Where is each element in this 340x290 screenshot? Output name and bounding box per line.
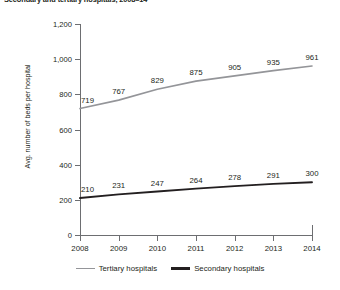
data-point-label: 719: [81, 96, 94, 105]
data-point-label: 291: [267, 171, 280, 180]
data-point-label: 247: [151, 179, 164, 188]
data-point-label: 300: [305, 169, 318, 178]
data-point-label: 961: [305, 53, 318, 62]
legend-label: Secondary hospitals: [194, 264, 264, 273]
legend-label: Tertiary hospitals: [99, 264, 158, 273]
data-point-label: 231: [112, 181, 125, 190]
data-point-label: 264: [189, 176, 202, 185]
legend-swatch-icon: [171, 267, 190, 269]
data-point-label: 935: [267, 58, 280, 67]
data-point-label: 278: [228, 173, 241, 182]
data-point-label: 210: [81, 185, 94, 194]
data-point-label: 875: [189, 68, 202, 77]
legend-item[interactable]: Tertiary hospitals: [76, 264, 158, 273]
legend-swatch-icon: [76, 268, 95, 270]
legend-item[interactable]: Secondary hospitals: [171, 264, 264, 273]
data-point-label: 829: [151, 76, 164, 85]
series-plot: [0, 0, 340, 290]
chart-legend: Tertiary hospitalsSecondary hospitals: [0, 264, 340, 273]
data-point-label: 905: [228, 63, 241, 72]
data-point-label: 767: [112, 87, 125, 96]
chart-figure: Secondary and tertiary hospitals, 2008–1…: [0, 0, 340, 290]
